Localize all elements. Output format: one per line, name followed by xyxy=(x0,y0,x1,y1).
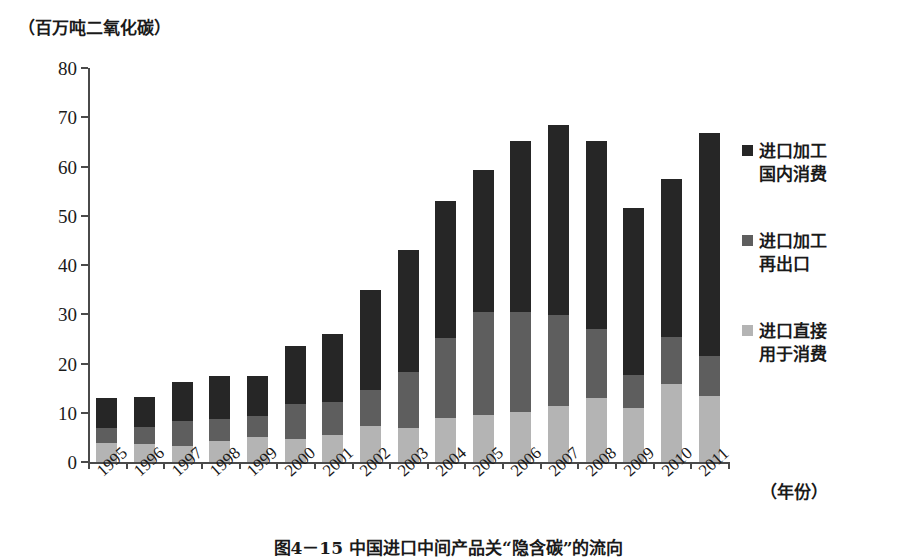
bar-2008 xyxy=(586,141,607,462)
bar-segment xyxy=(473,312,494,414)
bar-segment xyxy=(172,382,193,421)
y-tick-label: 0 xyxy=(68,453,78,472)
y-tick xyxy=(81,412,88,414)
bar-segment xyxy=(435,338,456,418)
bar-2000 xyxy=(285,346,306,462)
bar-segment xyxy=(209,419,230,441)
bar-segment xyxy=(322,402,343,435)
bar-segment xyxy=(96,398,117,428)
legend-import-direct-consumption[interactable]: 进口直接 用于消费 xyxy=(742,320,894,366)
bar-segment xyxy=(134,397,155,428)
x-tick xyxy=(728,462,730,469)
bar-segment xyxy=(623,375,644,408)
bar-segment xyxy=(172,421,193,446)
bar-2002 xyxy=(360,290,381,462)
bar-segment xyxy=(285,346,306,404)
bar-2011 xyxy=(699,133,720,462)
y-tick-label: 80 xyxy=(58,59,77,78)
bar-segment xyxy=(586,141,607,329)
bar-segment xyxy=(510,312,531,411)
y-tick-label: 20 xyxy=(58,354,77,373)
bar-2006 xyxy=(510,141,531,462)
bar-segment xyxy=(209,376,230,419)
bar-segment xyxy=(398,250,419,372)
bar-segment xyxy=(623,208,644,375)
y-tick-label: 40 xyxy=(58,256,77,275)
y-tick xyxy=(81,363,88,365)
y-tick-label: 10 xyxy=(58,403,77,422)
bar-segment xyxy=(360,390,381,426)
legend-import-processing-reexport[interactable]: 进口加工 再出口 xyxy=(742,230,894,276)
figure-caption: 图4－15 中国进口中间产品关“隐含碳”的流向 xyxy=(0,534,897,559)
bar-segment xyxy=(435,201,456,338)
bar-segment xyxy=(548,125,569,315)
bar-2005 xyxy=(473,170,494,462)
legend-swatch-icon xyxy=(742,145,753,156)
bar-segment xyxy=(661,179,682,337)
bar-segment xyxy=(699,133,720,357)
plot-area: 01020304050607080 xyxy=(88,68,728,462)
bar-segment xyxy=(247,376,268,416)
y-tick xyxy=(81,116,88,118)
bar-segment xyxy=(398,372,419,427)
bar-2010 xyxy=(661,179,682,462)
bar-segment xyxy=(548,315,569,407)
legend-label: 进口加工 国内消费 xyxy=(759,140,827,186)
chart-legend: 进口加工 国内消费进口加工 再出口进口直接 用于消费 xyxy=(742,140,894,410)
bar-segment xyxy=(285,404,306,439)
y-tick-label: 60 xyxy=(58,157,77,176)
legend-label: 进口直接 用于消费 xyxy=(759,320,827,366)
bar-segment xyxy=(247,416,268,438)
y-axis-unit-label: （百万吨二氧化碳） xyxy=(18,14,171,39)
legend-swatch-icon xyxy=(742,325,753,336)
legend-label: 进口加工 再出口 xyxy=(759,230,827,276)
bar-segment xyxy=(586,329,607,398)
legend-swatch-icon xyxy=(742,235,753,246)
x-axis-labels: 1995199619971998199920002001200220032004… xyxy=(88,466,728,514)
y-tick xyxy=(81,166,88,168)
y-tick xyxy=(81,264,88,266)
bar-2009 xyxy=(623,208,644,462)
bar-2003 xyxy=(398,250,419,462)
y-tick-label: 70 xyxy=(58,108,77,127)
y-tick-label: 50 xyxy=(58,206,77,225)
y-tick xyxy=(81,215,88,217)
y-tick xyxy=(81,313,88,315)
y-tick xyxy=(81,461,88,463)
bar-segment xyxy=(473,170,494,312)
bar-segment xyxy=(699,356,720,395)
bar-2007 xyxy=(548,125,569,462)
y-tick xyxy=(81,67,88,69)
bar-segment xyxy=(96,428,117,443)
bars-container xyxy=(88,68,728,462)
y-tick-label: 30 xyxy=(58,305,77,324)
x-axis-unit-label: （年份） xyxy=(760,478,828,503)
bar-segment xyxy=(134,427,155,444)
legend-import-processing-domestic[interactable]: 进口加工 国内消费 xyxy=(742,140,894,186)
bar-2004 xyxy=(435,201,456,462)
bar-segment xyxy=(661,337,682,384)
bar-segment xyxy=(360,290,381,389)
bar-2001 xyxy=(322,334,343,462)
bar-segment xyxy=(322,334,343,402)
bar-segment xyxy=(510,141,531,312)
